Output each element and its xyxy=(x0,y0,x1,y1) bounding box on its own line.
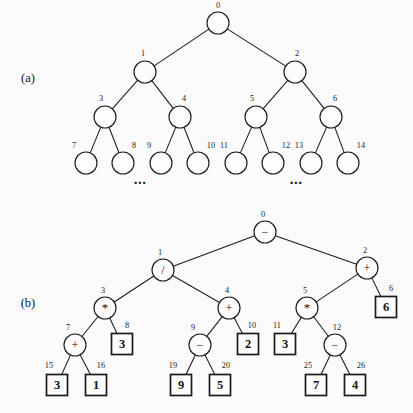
node-circle[interactable] xyxy=(134,61,156,83)
node-circle[interactable] xyxy=(112,152,134,174)
tree-edge xyxy=(90,127,101,153)
tree-edge xyxy=(109,127,119,153)
tree-node[interactable]: 1 xyxy=(134,49,156,83)
operand-value: 3 xyxy=(282,337,288,351)
panel-a-edges xyxy=(90,29,344,153)
node-circle[interactable] xyxy=(94,106,116,128)
tree-node[interactable]: *3 xyxy=(94,286,116,319)
tree-node[interactable]: +2 xyxy=(356,246,378,279)
node-index-label: 11 xyxy=(273,321,281,330)
node-index-label: 8 xyxy=(132,141,136,150)
tree-edge xyxy=(372,278,381,297)
tree-edge xyxy=(335,127,344,152)
operand-value: 7 xyxy=(313,378,319,392)
tree-node[interactable]: 311 xyxy=(273,321,296,355)
panel-a-group: 01234567891011121314......(a) xyxy=(21,1,366,187)
tree-edge xyxy=(207,317,222,337)
ellipsis-marker: ... xyxy=(290,171,303,187)
tree-edge xyxy=(316,274,358,302)
operator-symbol: + xyxy=(226,301,233,315)
node-index-label: 8 xyxy=(125,321,129,330)
operand-value: 9 xyxy=(178,378,184,392)
tree-edge xyxy=(173,236,254,266)
tree-edge xyxy=(340,355,350,375)
tree-node[interactable]: +4 xyxy=(218,286,240,319)
node-circle[interactable] xyxy=(150,152,172,174)
tree-edge xyxy=(62,355,71,375)
tree-edge xyxy=(260,127,269,152)
node-circle[interactable] xyxy=(284,61,306,83)
operand-value: 3 xyxy=(119,337,125,351)
tree-node[interactable]: 725 xyxy=(304,361,327,396)
node-circle[interactable] xyxy=(245,106,267,128)
node-index-label: 3 xyxy=(99,94,103,103)
tree-edge xyxy=(184,127,194,153)
node-index-label: 9 xyxy=(191,323,195,332)
node-index-label: 10 xyxy=(207,141,215,150)
node-index-label: 9 xyxy=(147,141,151,150)
node-circle[interactable] xyxy=(169,106,191,128)
tree-edge xyxy=(227,29,285,66)
node-index-label: 6 xyxy=(333,94,337,103)
node-index-label: 25 xyxy=(304,361,312,370)
node-circle[interactable] xyxy=(225,152,247,174)
panel-label-a: (a) xyxy=(21,71,35,85)
ellipsis-marker: ... xyxy=(134,171,147,187)
node-index-label: 0 xyxy=(261,210,265,219)
node-circle[interactable] xyxy=(75,152,97,174)
node-index-label: 4 xyxy=(182,94,187,103)
tree-node[interactable]: 426 xyxy=(345,361,366,396)
node-index-label: 13 xyxy=(295,141,303,150)
node-index-label: 2 xyxy=(363,246,367,255)
node-circle[interactable] xyxy=(337,152,359,174)
node-index-label: 5 xyxy=(303,286,307,295)
operator-symbol: * xyxy=(102,300,109,315)
tree-node[interactable]: −9 xyxy=(189,323,211,356)
operand-value: 5 xyxy=(217,378,223,392)
tree-node[interactable]: 66 xyxy=(376,284,397,318)
tree-node[interactable]: 116 xyxy=(86,361,107,396)
tree-node[interactable]: 4 xyxy=(169,94,191,128)
tree-node[interactable]: 3 xyxy=(94,94,116,128)
node-index-label: 2 xyxy=(295,49,299,58)
tree-edge xyxy=(110,318,117,334)
tree-node[interactable]: 315 xyxy=(45,361,68,396)
operand-value: 1 xyxy=(93,378,99,392)
tree-node[interactable]: 38 xyxy=(112,321,133,355)
tree-node[interactable]: *5 xyxy=(296,286,318,319)
tree-node[interactable]: 919 xyxy=(169,361,192,396)
tree-node[interactable]: /1 xyxy=(152,248,174,281)
node-index-label: 12 xyxy=(333,323,341,332)
node-index-label: 11 xyxy=(220,141,228,150)
node-index-label: 1 xyxy=(141,49,145,58)
node-index-label: 14 xyxy=(357,141,366,150)
tree-node[interactable]: 2 xyxy=(284,49,306,83)
operator-symbol: + xyxy=(364,261,371,275)
node-index-label: 7 xyxy=(66,323,70,332)
tree-node[interactable]: 0 xyxy=(207,1,229,34)
tree-node[interactable]: 210 xyxy=(238,321,259,355)
tree-node[interactable]: −12 xyxy=(324,323,346,356)
node-index-label: 12 xyxy=(282,141,290,150)
tree-edge xyxy=(205,355,215,375)
node-circle[interactable] xyxy=(207,12,229,34)
node-circle[interactable] xyxy=(300,152,322,174)
node-index-label: 10 xyxy=(248,321,256,330)
node-index-label: 1 xyxy=(158,248,162,257)
tree-node[interactable]: −0 xyxy=(254,210,276,243)
tree-node[interactable]: 520 xyxy=(210,361,231,396)
node-index-label: 6 xyxy=(389,284,393,293)
tree-node[interactable]: 6 xyxy=(320,94,342,128)
node-index-label: 19 xyxy=(169,361,177,370)
tree-node[interactable]: 8 xyxy=(112,141,136,174)
node-circle[interactable] xyxy=(187,152,209,174)
node-circle[interactable] xyxy=(262,152,284,174)
node-circle[interactable] xyxy=(320,106,342,128)
panel-label-b: (b) xyxy=(21,296,36,310)
node-index-label: 15 xyxy=(45,361,53,370)
tree-edge xyxy=(154,29,209,66)
tree-node[interactable]: +7 xyxy=(64,323,86,356)
tree-diagram-canvas: 01234567891011121314......(a) −0/1+2*3+4… xyxy=(0,0,413,413)
node-index-label: 4 xyxy=(225,286,230,295)
tree-node[interactable]: 5 xyxy=(245,94,267,128)
